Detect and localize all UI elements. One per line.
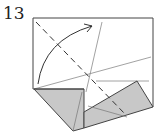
origami-diagram	[0, 0, 159, 135]
left-gray-flap	[34, 89, 84, 131]
